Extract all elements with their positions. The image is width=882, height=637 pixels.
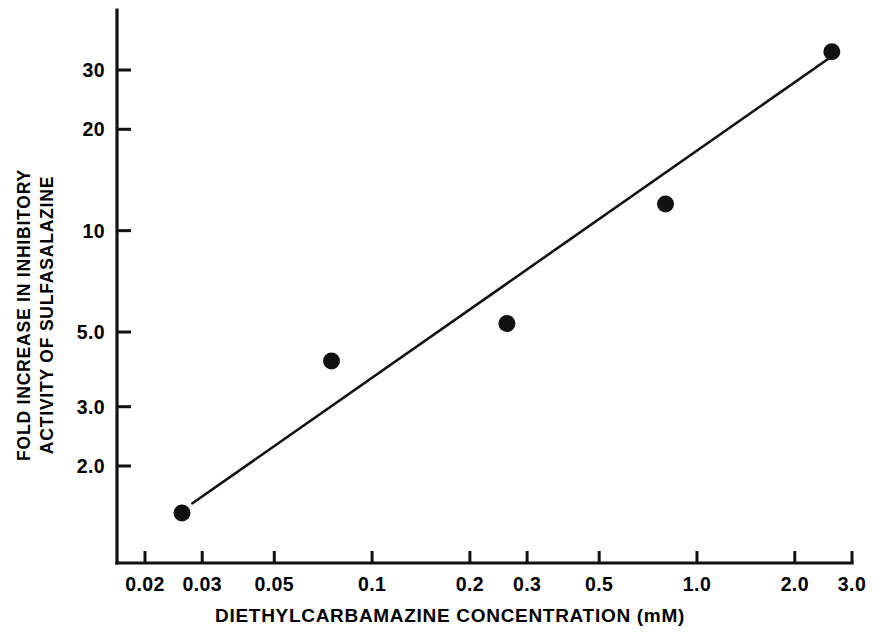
x-tick-label: 2.0 (781, 573, 809, 595)
data-point (823, 43, 840, 60)
x-tick-label: 0.03 (182, 573, 222, 595)
x-tick-label: 0.05 (255, 573, 295, 595)
scatter-plot: 2.03.05.0102030 0.020.030.050.10.20.30.5… (0, 0, 882, 637)
regression-line-group (192, 58, 829, 503)
y-tick-label: 20 (83, 118, 106, 140)
regression-line (192, 58, 829, 503)
y-tick-label: 5.0 (77, 321, 105, 343)
y-axis-title-line1: FOLD INCREASE IN INHIBITORY (14, 169, 34, 461)
y-axis-title-line2: ACTIVITY OF SULFASALAZINE (37, 176, 57, 454)
y-axis-title: FOLD INCREASE IN INHIBITORY ACTIVITY OF … (14, 169, 57, 461)
x-tick-label: 0.3 (513, 573, 541, 595)
x-tick-label: 0.2 (456, 573, 484, 595)
y-tick-label: 10 (83, 220, 106, 242)
figure-panel: 2.03.05.0102030 0.020.030.050.10.20.30.5… (0, 0, 882, 637)
y-axis-tick-labels: 2.03.05.0102030 (77, 59, 105, 477)
x-tick-label: 3.0 (838, 573, 866, 595)
y-tick-label: 30 (83, 59, 106, 81)
x-tick-label: 0.02 (125, 573, 165, 595)
x-axis-ticks (145, 551, 852, 563)
y-axis-ticks (117, 70, 131, 466)
x-axis-title: DIETHYLCARBAMAZINE CONCENTRATION (mM) (215, 605, 685, 626)
data-point (174, 505, 191, 522)
x-tick-label: 1.0 (683, 573, 711, 595)
y-tick-label: 2.0 (77, 455, 105, 477)
data-point (657, 195, 674, 212)
y-tick-label: 3.0 (77, 396, 105, 418)
x-tick-label: 0.5 (585, 573, 613, 595)
x-axis-tick-labels: 0.020.030.050.10.20.30.51.02.03.0 (125, 573, 866, 595)
x-tick-label: 0.1 (358, 573, 386, 595)
data-point (498, 315, 515, 332)
data-point (323, 353, 340, 370)
